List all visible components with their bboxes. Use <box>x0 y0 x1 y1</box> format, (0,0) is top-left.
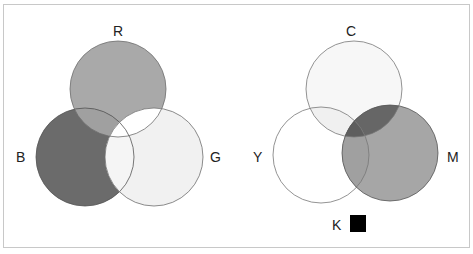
label-b: B <box>16 149 25 165</box>
label-y: Y <box>253 149 263 165</box>
label-c: C <box>346 23 356 39</box>
black-key-swatch <box>350 215 366 232</box>
label-m: M <box>447 149 459 165</box>
label-k: K <box>332 217 342 233</box>
label-r: R <box>113 23 123 39</box>
label-g: G <box>210 149 221 165</box>
color-model-diagram: R B G C Y M K <box>0 0 473 254</box>
